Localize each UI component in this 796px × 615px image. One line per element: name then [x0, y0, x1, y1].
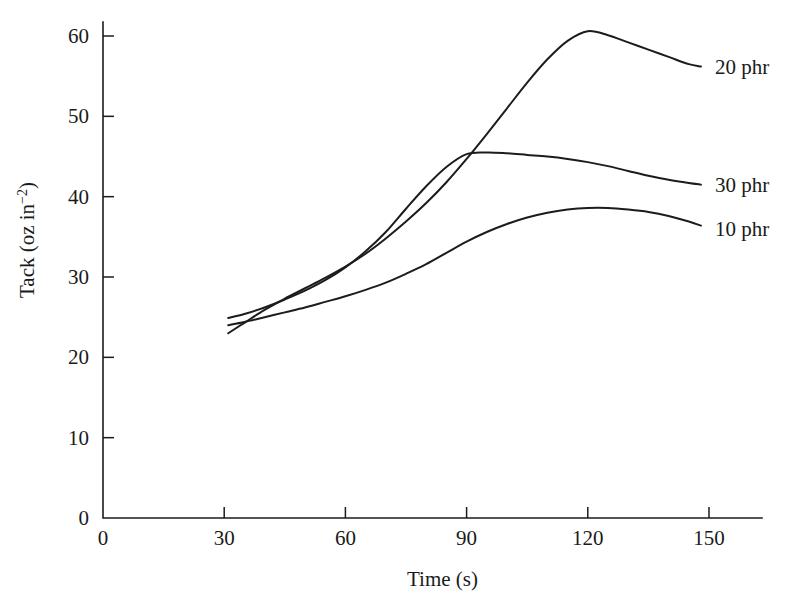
x-tick-label: 0: [98, 526, 109, 550]
x-tick-label: 30: [214, 526, 235, 550]
y-tick-label: 10: [68, 426, 89, 450]
tick-labels: 01020304050600306090120150: [68, 24, 725, 550]
figure-container: 01020304050600306090120150 20 phr30 phr1…: [0, 0, 796, 615]
y-tick-label: 20: [68, 345, 89, 369]
series-labels: 20 phr30 phr10 phr: [715, 55, 769, 241]
x-tick-label: 150: [693, 526, 725, 550]
x-tick-label: 60: [335, 526, 356, 550]
y-tick-label: 0: [79, 506, 90, 530]
series-label-10-phr: 10 phr: [715, 217, 769, 241]
line-chart: 01020304050600306090120150 20 phr30 phr1…: [0, 0, 796, 615]
y-axis-title: Tack (oz in−2): [15, 182, 40, 298]
y-tick-label: 50: [68, 104, 89, 128]
x-tick-label: 120: [572, 526, 604, 550]
y-tick-label: 30: [68, 265, 89, 289]
curve-20-phr: [228, 31, 701, 333]
series-label-30-phr: 30 phr: [715, 173, 769, 197]
axes: [103, 22, 762, 518]
tick-marks: [103, 36, 709, 518]
series-label-20-phr: 20 phr: [715, 55, 769, 79]
y-tick-label: 60: [68, 24, 89, 48]
curve-30-phr: [228, 152, 701, 318]
curve-10-phr: [228, 208, 701, 325]
data-curves: [228, 31, 701, 333]
y-tick-label: 40: [68, 185, 89, 209]
x-axis-title: Time (s): [407, 567, 478, 591]
axis-spines: [103, 22, 762, 518]
x-tick-label: 90: [456, 526, 477, 550]
